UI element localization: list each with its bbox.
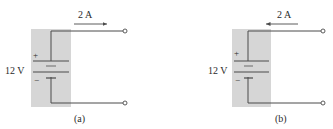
caption: (b)	[275, 113, 287, 125]
voltage-label: 12 V	[5, 65, 25, 76]
circuit-diagram: 2 A + − 12 V (a) 2 A + − 12 V (b)	[0, 0, 333, 129]
panel-a: 2 A + − 12 V (a)	[5, 9, 127, 125]
minus-sign-outer: −	[34, 75, 39, 85]
current-label: 2 A	[78, 9, 93, 20]
terminal-bottom	[123, 101, 127, 105]
voltage-label: 12 V	[208, 65, 228, 76]
terminal-bottom	[321, 101, 325, 105]
current-label: 2 A	[277, 9, 292, 20]
terminal-top	[321, 29, 325, 33]
minus-sign-outer: −	[235, 75, 240, 85]
plus-sign: +	[234, 48, 239, 58]
panel-b: 2 A + − 12 V (b)	[208, 9, 325, 125]
battery-shading	[232, 29, 271, 107]
terminal-top	[123, 29, 127, 33]
caption: (a)	[74, 113, 85, 125]
plus-sign: +	[33, 50, 38, 60]
